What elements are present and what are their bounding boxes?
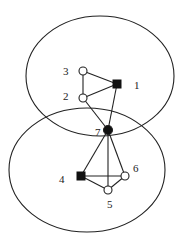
edge-7-6 bbox=[108, 130, 125, 176]
graph-svg: 1234567 bbox=[0, 0, 182, 241]
node-7-label: 7 bbox=[95, 126, 101, 138]
edge-1-7 bbox=[108, 84, 117, 130]
node-2-circle-icon bbox=[79, 94, 87, 102]
node-7-filled-circle-icon bbox=[104, 126, 113, 135]
node-6-circle-icon bbox=[121, 172, 129, 180]
node-3-label: 3 bbox=[63, 65, 69, 77]
clusters bbox=[9, 16, 174, 232]
node-2-label: 2 bbox=[63, 90, 69, 102]
node-5-label: 5 bbox=[107, 198, 113, 210]
node-1-label: 1 bbox=[134, 79, 140, 91]
top-cluster-ellipse bbox=[26, 16, 174, 136]
bottom-cluster-ellipse bbox=[9, 108, 165, 232]
node-4-square-icon bbox=[77, 172, 85, 180]
node-6-label: 6 bbox=[133, 162, 139, 174]
nodes bbox=[77, 67, 129, 194]
edge-2-1 bbox=[83, 84, 117, 98]
node-5-circle-icon bbox=[104, 186, 112, 194]
diagram-canvas: 1234567 bbox=[0, 0, 182, 241]
labels: 1234567 bbox=[59, 65, 140, 210]
node-3-circle-icon bbox=[79, 67, 87, 75]
node-1-square-icon bbox=[113, 80, 121, 88]
edge-3-1 bbox=[83, 71, 117, 84]
node-4-label: 4 bbox=[59, 173, 65, 185]
